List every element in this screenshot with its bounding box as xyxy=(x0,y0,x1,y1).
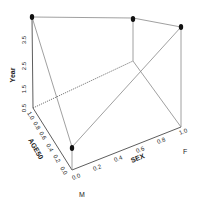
z-tick-label: 2.5 xyxy=(21,61,27,70)
sex-axis-label: SEX xyxy=(130,152,146,164)
data-points xyxy=(30,14,183,151)
age-tick-label: 0.6 xyxy=(38,131,48,142)
age-axis-ticks: 1.0 0.8 0.6 0.4 0.2 0.0 AGE50 xyxy=(26,111,69,177)
sex-tick-label: 0.8 xyxy=(156,136,167,145)
z-tick-label: 3.5 xyxy=(21,35,27,44)
age-axis-line xyxy=(33,108,72,170)
data-point xyxy=(70,145,74,151)
age-tick-label: 0.4 xyxy=(45,143,55,154)
sex-tick-label: 0.4 xyxy=(113,154,124,163)
age-tick-label: 0.0 xyxy=(59,166,69,177)
sex-tick-label: 1.0 xyxy=(178,127,189,136)
age-tick-label: 0.2 xyxy=(52,154,62,165)
data-lines xyxy=(32,17,181,170)
axis-frame xyxy=(32,17,181,170)
age-tick-label: 0.8 xyxy=(32,121,42,132)
z-axis-label: Year xyxy=(9,67,16,82)
z-axis-line xyxy=(32,17,33,108)
age-axis-label: AGE50 xyxy=(27,137,45,160)
z-tick-label: 1.5 xyxy=(21,84,27,93)
sex-axis-ticks: 0.0 0.2 0.4 0.6 0.8 1.0 SEX xyxy=(71,127,189,181)
data-point xyxy=(30,14,34,20)
sex-axis-line xyxy=(72,127,181,170)
data-point xyxy=(179,24,183,30)
sex-tick-label: 0.0 xyxy=(71,172,82,181)
sex-category-m-label: M xyxy=(79,191,85,198)
data-point xyxy=(131,16,135,22)
3d-scatter-plot: 3.5 2.5 1.5 0.5 Year 1.0 0.8 0.6 0.4 0.2… xyxy=(0,0,197,204)
sex-category-f-label: F xyxy=(183,148,187,155)
z-axis-ticks: 3.5 2.5 1.5 0.5 Year xyxy=(9,35,27,112)
sex-tick-label: 0.2 xyxy=(92,163,103,172)
age-tick-label: 1.0 xyxy=(26,111,36,122)
z-tick-label: 0.5 xyxy=(21,103,27,112)
